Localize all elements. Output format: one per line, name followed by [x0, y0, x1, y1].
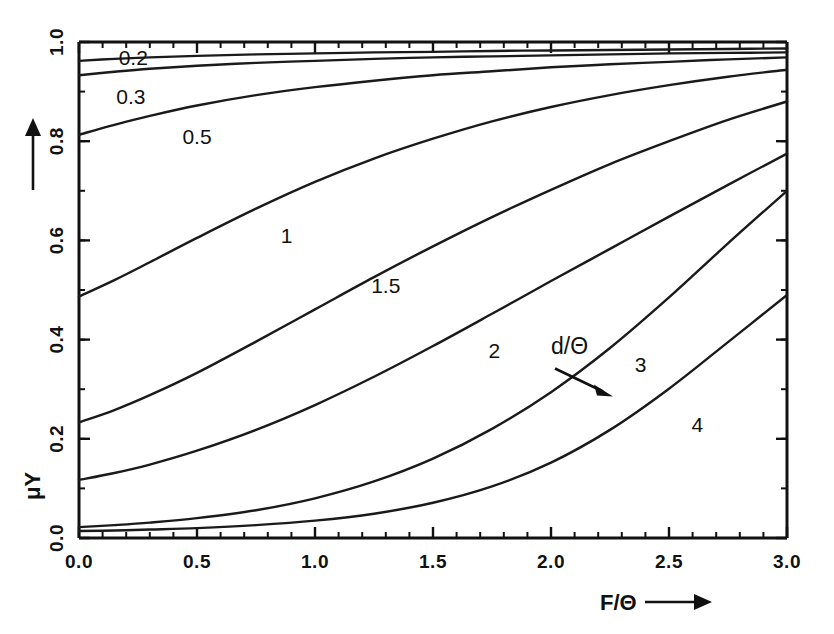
- x-axis-title-group: F/Θ: [600, 590, 712, 615]
- x-tick-label: 0.0: [65, 551, 93, 572]
- curve-label-1.5: 1.5: [371, 274, 400, 297]
- axis-tick-labels: 0.00.51.01.52.02.53.00.00.20.40.60.81.0: [46, 28, 801, 572]
- x-tick-label: 1.5: [419, 551, 447, 572]
- curve-label-0.2: 0.2: [119, 46, 148, 69]
- chart-canvas: 0.00.51.01.52.02.53.00.00.20.40.60.81.0 …: [0, 0, 834, 634]
- x-axis-arrow-head: [694, 594, 712, 610]
- y-tick-label: 0.2: [46, 425, 67, 453]
- y-tick-label: 1.0: [46, 28, 67, 56]
- axes-frame: [79, 42, 787, 538]
- curve-1: [79, 70, 787, 297]
- x-tick-label: 2.5: [655, 551, 683, 572]
- y-tick-label: 0.6: [46, 226, 67, 254]
- annotation-arrow-head: [594, 384, 613, 396]
- x-tick-label: 2.0: [537, 551, 565, 572]
- curve-label-3: 3: [635, 353, 647, 376]
- x-tick-label: 3.0: [773, 551, 801, 572]
- chart-figure: 0.00.51.01.52.02.53.00.00.20.40.60.81.0 …: [0, 0, 834, 634]
- annotation-label: d/Θ: [551, 333, 588, 359]
- y-tick-label: 0.0: [46, 524, 67, 552]
- y-tick-label: 0.4: [46, 326, 67, 354]
- curve-4: [79, 295, 787, 531]
- curve-label-1: 1: [281, 224, 293, 247]
- y-axis-arrow-head: [25, 118, 41, 136]
- y-tick-label: 0.8: [46, 127, 67, 155]
- curve-3: [79, 191, 787, 527]
- x-tick-label: 0.5: [183, 551, 211, 572]
- y-axis-title-group: μY: [20, 118, 45, 500]
- y-axis-title: μY: [20, 472, 45, 500]
- axis-ticks: [79, 42, 787, 538]
- curve-label-2: 2: [489, 339, 501, 362]
- curve-label-4: 4: [691, 413, 703, 436]
- data-curves: [79, 48, 787, 531]
- curve-1.5: [79, 102, 787, 423]
- curve-0.5: [79, 57, 787, 134]
- curve-label-0.5: 0.5: [182, 125, 211, 148]
- curve-label-0.3: 0.3: [116, 85, 145, 108]
- x-tick-label: 1.0: [301, 551, 329, 572]
- curve-2: [79, 154, 787, 480]
- x-axis-title: F/Θ: [600, 590, 637, 615]
